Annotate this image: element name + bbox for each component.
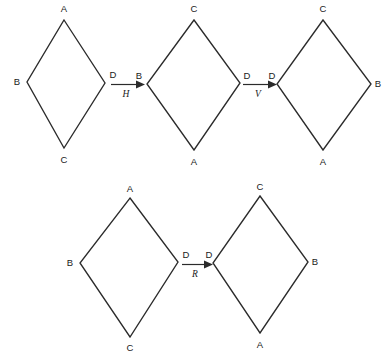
arrow-v: V (243, 81, 277, 100)
vertex-label-top: A (127, 183, 134, 194)
vertex-label-left: B (136, 70, 142, 81)
arrow-label-h: H (122, 89, 131, 99)
rhombus-shape-2: C B D A (136, 3, 251, 167)
arrow-h: H (111, 81, 145, 100)
vertex-label-right: B (375, 78, 381, 89)
rhombus-shape-1: A B D C (14, 3, 117, 165)
vertex-label-bottom: A (191, 156, 198, 167)
rhombus-outline (277, 20, 371, 150)
vertex-label-right: D (110, 69, 117, 80)
arrow-head-icon (136, 81, 145, 89)
diagram-canvas: A B D C H C B D A V C D (0, 0, 384, 354)
vertex-label-left: D (206, 249, 213, 260)
vertex-label-right: B (312, 256, 318, 267)
vertex-label-left: D (269, 70, 276, 81)
arrow-r: R (182, 261, 213, 280)
transformation-diagram: A B D C H C B D A V C D (0, 0, 384, 354)
vertex-label-bottom: A (320, 156, 327, 167)
rhombus-outline (27, 20, 105, 148)
arrow-label-v: V (255, 89, 262, 99)
arrow-label-r: R (191, 269, 198, 279)
vertex-label-top: C (191, 3, 198, 14)
arrow-head-icon (204, 261, 213, 269)
vertex-label-bottom: A (257, 339, 264, 350)
vertex-label-top: C (257, 181, 264, 192)
rhombus-outline (147, 20, 240, 150)
arrow-head-icon (268, 81, 277, 89)
rhombus-shape-4: A B D C (67, 183, 190, 353)
vertex-label-right: D (244, 70, 251, 81)
rhombus-outline (80, 198, 178, 337)
vertex-label-bottom: C (61, 154, 68, 165)
rhombus-shape-3: C D B A (269, 3, 382, 167)
vertex-label-bottom: C (127, 342, 134, 353)
vertex-label-top: C (320, 3, 327, 14)
vertex-label-left: B (14, 76, 20, 87)
vertex-label-top: A (61, 3, 68, 14)
vertex-label-left: B (67, 257, 73, 268)
vertex-label-right: D (183, 249, 190, 260)
rhombus-shape-5: C D B A (206, 181, 319, 350)
rhombus-outline (213, 196, 308, 333)
